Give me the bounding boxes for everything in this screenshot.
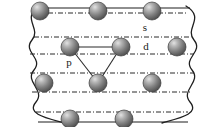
orbital-label-p: p bbox=[66, 56, 72, 68]
left-wave-boundary bbox=[29, 6, 64, 123]
atom-sphere bbox=[35, 74, 53, 92]
lattice-row-bottom bbox=[61, 110, 133, 127]
atom-sphere bbox=[89, 74, 107, 92]
lattice-orbital-figure: s d p bbox=[0, 0, 216, 127]
wave-boundaries bbox=[29, 6, 196, 123]
figure-canvas: s d p bbox=[0, 0, 216, 127]
atom-sphere bbox=[143, 74, 161, 92]
atom-sphere bbox=[61, 38, 79, 56]
atom-sphere bbox=[112, 38, 130, 56]
atom-sphere bbox=[89, 2, 107, 20]
atom-sphere bbox=[61, 110, 79, 127]
lattice-row-top bbox=[31, 2, 161, 20]
atom-sphere bbox=[115, 110, 133, 127]
energy-level-lines bbox=[30, 13, 194, 112]
lattice-row-third bbox=[35, 74, 161, 92]
orbital-label-s: s bbox=[143, 21, 147, 33]
orbital-label-d: d bbox=[143, 40, 149, 52]
solid-edge-lines bbox=[36, 8, 190, 122]
atom-sphere bbox=[143, 2, 161, 20]
atom-sphere bbox=[168, 38, 186, 56]
right-wave-boundary bbox=[162, 6, 197, 123]
atom-sphere bbox=[31, 2, 49, 20]
